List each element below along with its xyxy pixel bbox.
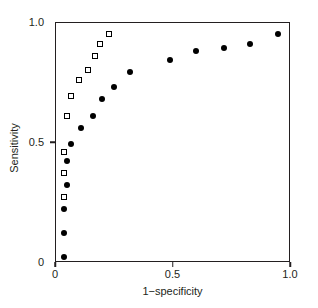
x-tick-0 [54, 262, 56, 267]
y-tick-label-1: 0.5 [29, 136, 44, 148]
x-tick-2 [289, 262, 291, 267]
roc-curve-figure: 00.51.000.51.0 1−specificity Sensitivity [0, 0, 318, 308]
y-tick-1 [50, 141, 55, 143]
x-tick-1 [172, 262, 174, 267]
y-tick-label-0: 0 [38, 256, 44, 268]
plot-area [55, 22, 290, 262]
x-tick-label-0: 0 [52, 268, 58, 280]
x-axis-label: 1−specificity [55, 285, 290, 297]
y-axis-label: Sensitivity [8, 88, 20, 208]
x-tick-label-2: 1.0 [282, 268, 297, 280]
x-tick-label-1: 0.5 [165, 268, 180, 280]
y-tick-label-2: 1.0 [29, 16, 44, 28]
